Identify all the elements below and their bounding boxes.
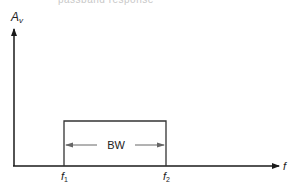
f2-label: f2 xyxy=(163,170,170,183)
y-axis: Av xyxy=(10,10,24,166)
f1-label: f1 xyxy=(61,170,68,183)
x-axis: f xyxy=(13,160,287,172)
marker-f2: f2 xyxy=(163,170,170,183)
y-axis-label: Av xyxy=(10,10,24,25)
x-axis-label: f xyxy=(283,160,287,172)
bandwidth-indicator: BW xyxy=(66,139,164,151)
marker-f1: f1 xyxy=(61,170,68,183)
bandwidth-label: BW xyxy=(107,139,125,151)
bandpass-diagram: Av f BW f1 f2 xyxy=(0,0,295,190)
